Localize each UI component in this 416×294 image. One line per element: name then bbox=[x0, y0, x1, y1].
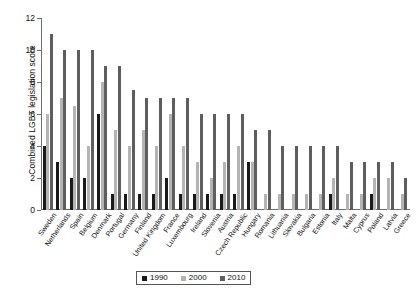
bar-group bbox=[247, 18, 261, 210]
bar-2010 bbox=[404, 178, 407, 210]
bar-1990 bbox=[370, 194, 373, 210]
bar-2010 bbox=[118, 66, 121, 210]
chart-legend: 199020002010 bbox=[136, 271, 251, 285]
bar-1990 bbox=[233, 194, 236, 210]
legend-item-2010: 2010 bbox=[220, 274, 246, 282]
bar-2000 bbox=[237, 146, 240, 210]
bar-1990 bbox=[179, 194, 182, 210]
bar-group bbox=[370, 18, 384, 210]
bar-2010 bbox=[363, 162, 366, 210]
bar-group bbox=[97, 18, 111, 210]
bar-2000 bbox=[387, 178, 390, 210]
legend-label: 2000 bbox=[189, 274, 207, 282]
bar-group bbox=[315, 18, 329, 210]
bar-2000 bbox=[292, 194, 295, 210]
y-tick-label: 0 bbox=[30, 205, 35, 215]
bar-1990 bbox=[193, 194, 196, 210]
bar-group bbox=[329, 18, 343, 210]
bar-2000 bbox=[223, 162, 226, 210]
bar-2010 bbox=[227, 114, 230, 210]
bar-group bbox=[302, 18, 316, 210]
bar-group bbox=[70, 18, 84, 210]
y-tick-label: 8 bbox=[30, 77, 35, 87]
bar-2010 bbox=[336, 146, 339, 210]
bar-2010 bbox=[77, 50, 80, 210]
bar-1990 bbox=[56, 162, 59, 210]
bar-2000 bbox=[278, 194, 281, 210]
bar-2000 bbox=[128, 146, 131, 210]
bar-group bbox=[43, 18, 57, 210]
bar-2000 bbox=[401, 194, 404, 210]
y-tick-label: 4 bbox=[30, 141, 35, 151]
bar-2000 bbox=[210, 178, 213, 210]
bar-1990 bbox=[97, 114, 100, 210]
bar-1990 bbox=[124, 194, 127, 210]
y-tick-mark bbox=[37, 178, 41, 179]
bar-1990 bbox=[83, 178, 86, 210]
bar-1990 bbox=[220, 194, 223, 210]
bar-2000 bbox=[114, 130, 117, 210]
bar-2010 bbox=[104, 66, 107, 210]
bar-2010 bbox=[391, 162, 394, 210]
y-tick-label: 2 bbox=[30, 173, 35, 183]
bar-2000 bbox=[182, 146, 185, 210]
legend-swatch bbox=[181, 276, 186, 281]
y-tick-mark bbox=[37, 114, 41, 115]
bar-1990 bbox=[152, 194, 155, 210]
bar-2000 bbox=[155, 146, 158, 210]
legend-item-2000: 2000 bbox=[181, 274, 207, 282]
bar-2010 bbox=[50, 34, 53, 210]
legend-item-1990: 1990 bbox=[142, 274, 168, 282]
bar-2010 bbox=[241, 114, 244, 210]
y-tick-mark bbox=[37, 50, 41, 51]
bar-2000 bbox=[251, 162, 254, 210]
bar-2000 bbox=[360, 194, 363, 210]
bar-group bbox=[138, 18, 152, 210]
x-axis-labels: SwedenNetherlandsSpainBelgiumDenmarkPort… bbox=[42, 211, 410, 271]
bar-2010 bbox=[172, 98, 175, 210]
bar-group bbox=[152, 18, 166, 210]
bar-2000 bbox=[87, 146, 90, 210]
bar-2010 bbox=[200, 114, 203, 210]
bar-1990 bbox=[111, 194, 114, 210]
y-tick-label: 10 bbox=[26, 45, 35, 55]
bar-group bbox=[261, 18, 275, 210]
bar-1990 bbox=[43, 146, 46, 210]
bar-group bbox=[288, 18, 302, 210]
bar-2000 bbox=[346, 194, 349, 210]
bar-2000 bbox=[264, 194, 267, 210]
bar-2000 bbox=[60, 98, 63, 210]
lgbt-legislation-bar-chart: Combined LGBT legislation score 02468101… bbox=[0, 0, 416, 294]
bar-group bbox=[342, 18, 356, 210]
bar-2010 bbox=[295, 146, 298, 210]
bar-group bbox=[397, 18, 411, 210]
legend-label: 2010 bbox=[228, 274, 246, 282]
bar-group bbox=[179, 18, 193, 210]
y-tick-mark bbox=[37, 146, 41, 147]
bar-group bbox=[165, 18, 179, 210]
bar-2010 bbox=[268, 130, 271, 210]
bar-group bbox=[220, 18, 234, 210]
legend-label: 1990 bbox=[150, 274, 168, 282]
bar-2000 bbox=[169, 114, 172, 210]
y-tick-mark bbox=[37, 18, 41, 19]
bar-2000 bbox=[46, 114, 49, 210]
bar-group bbox=[83, 18, 97, 210]
legend-swatch bbox=[142, 276, 147, 281]
bar-1990 bbox=[206, 194, 209, 210]
bar-2010 bbox=[281, 146, 284, 210]
bar-2010 bbox=[377, 162, 380, 210]
bar-2010 bbox=[186, 98, 189, 210]
bar-1990 bbox=[70, 178, 73, 210]
bar-1990 bbox=[329, 194, 332, 210]
y-tick-mark bbox=[37, 82, 41, 83]
bar-1990 bbox=[247, 162, 250, 210]
bar-2010 bbox=[159, 98, 162, 210]
bar-group bbox=[206, 18, 220, 210]
legend-swatch bbox=[220, 276, 225, 281]
bar-2010 bbox=[63, 50, 66, 210]
bar-2010 bbox=[350, 162, 353, 210]
bar-group bbox=[233, 18, 247, 210]
bar-2010 bbox=[309, 146, 312, 210]
bar-2010 bbox=[91, 50, 94, 210]
